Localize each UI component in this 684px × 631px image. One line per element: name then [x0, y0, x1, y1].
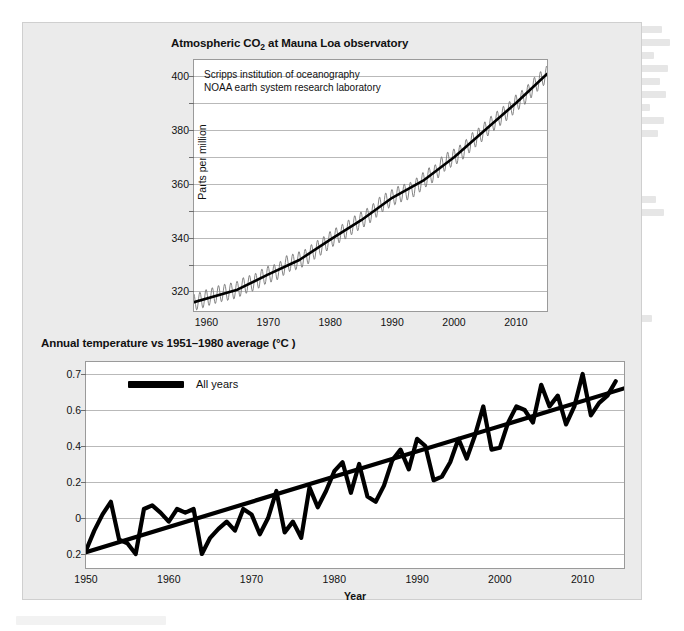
- co2-y-tick-label: 320: [149, 285, 189, 297]
- temperature-y-tick-label: 0.6: [41, 404, 81, 416]
- co2-title-main: Atmospheric CO: [171, 37, 260, 49]
- temperature-y-tick-label: 0.7: [41, 368, 81, 380]
- temperature-x-tick-label: 1970: [230, 573, 274, 585]
- temperature-y-tick-label: 0.2: [41, 476, 81, 488]
- co2-x-tick-label: 1990: [372, 316, 412, 328]
- co2-x-tick-label: 2000: [434, 316, 474, 328]
- temperature-x-tick-label: 1980: [312, 573, 356, 585]
- temperature-data-curves: [86, 362, 624, 568]
- co2-data-curves: [194, 60, 547, 311]
- figure-caption-ghost: [16, 616, 166, 625]
- temperature-y-tick-label: 0.4: [41, 440, 81, 452]
- temperature-chart-title: Annual temperature vs 1951–1980 average …: [41, 337, 296, 349]
- co2-y-tick-label: 360: [149, 178, 189, 190]
- co2-title-rest: at Mauna Loa observatory: [265, 37, 408, 49]
- co2-y-tick-label: 400: [149, 70, 189, 82]
- temperature-x-tick-label: 2010: [561, 573, 605, 585]
- co2-x-tick-label: 2010: [496, 316, 536, 328]
- temperature-plot-area: 0.7 0.6 0.4 0.2 0 0.2 1950 1960 1970 198…: [85, 361, 625, 569]
- temperature-x-tick-label: 1950: [64, 573, 108, 585]
- co2-x-tick-label: 1980: [310, 316, 350, 328]
- co2-plot-area: Parts per million 400 380 360 340 320 19…: [193, 59, 548, 312]
- temperature-x-tick-label: 1960: [147, 573, 191, 585]
- co2-y-tick-label: 340: [149, 232, 189, 244]
- co2-x-tick-label: 1970: [248, 316, 288, 328]
- temperature-x-tick-label: 2000: [478, 573, 522, 585]
- temperature-y-tick-label: 0.2: [41, 548, 81, 560]
- temperature-y-tick-label: 0: [41, 512, 81, 524]
- temperature-x-axis-label: Year: [86, 590, 624, 602]
- co2-chart-title: Atmospheric CO2 at Mauna Loa observatory: [171, 37, 408, 52]
- co2-y-tick-label: 380: [149, 124, 189, 136]
- temperature-x-tick-label: 1990: [395, 573, 439, 585]
- figure-panel: Atmospheric CO2 at Mauna Loa observatory…: [22, 22, 642, 600]
- co2-x-tick-label: 1960: [186, 316, 226, 328]
